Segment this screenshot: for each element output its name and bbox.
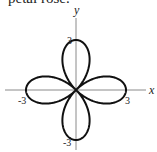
tick-y-neg: -3 [63,137,71,148]
x-axis-label: x [148,83,155,97]
tick-y-pos: 3 [67,35,72,46]
tick-x-neg: -3 [18,95,26,106]
rose-chart: y x 3 -3 -3 3 [0,0,157,152]
y-axis-label: y [73,3,80,17]
tick-x-pos: 3 [125,95,130,106]
